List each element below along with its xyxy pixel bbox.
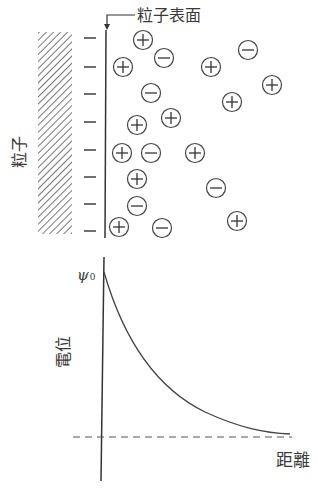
surface-charges bbox=[84, 38, 96, 231]
anion-icon bbox=[153, 219, 172, 238]
electric-double-layer-figure: 粒子 粒子表面 ψ0 電位 距離 bbox=[0, 0, 318, 494]
anion-icon bbox=[155, 49, 174, 68]
cation-icon bbox=[263, 76, 282, 95]
cation-icon bbox=[186, 144, 205, 163]
counter-ions bbox=[110, 31, 282, 238]
anion-icon bbox=[142, 144, 161, 163]
y-axis bbox=[101, 257, 104, 481]
cation-icon bbox=[128, 116, 147, 135]
surface-label-arrow bbox=[104, 15, 135, 30]
anion-icon bbox=[128, 197, 147, 216]
cation-icon bbox=[134, 31, 153, 50]
potential-chart: ψ0 電位 距離 bbox=[54, 257, 310, 481]
anion-icon bbox=[239, 41, 258, 60]
anion-icon bbox=[142, 84, 161, 103]
cation-icon bbox=[114, 58, 133, 77]
double-layer-diagram: 粒子 粒子表面 bbox=[10, 6, 282, 238]
surface-label: 粒子表面 bbox=[137, 6, 201, 25]
psi0-label: ψ0 bbox=[77, 266, 96, 284]
cation-icon bbox=[113, 144, 132, 163]
cation-icon bbox=[223, 93, 242, 112]
cation-icon bbox=[162, 109, 181, 128]
potential-axis-label: 電位 bbox=[54, 336, 73, 368]
distance-axis-label: 距離 bbox=[276, 450, 310, 470]
cation-icon bbox=[128, 170, 147, 189]
anion-icon bbox=[207, 179, 226, 198]
cation-icon bbox=[110, 218, 129, 237]
cation-icon bbox=[228, 212, 247, 231]
particle-surface-line bbox=[105, 30, 106, 238]
particle-hatched-block bbox=[38, 32, 72, 234]
potential-decay-curve bbox=[104, 272, 290, 434]
cation-icon bbox=[202, 58, 221, 77]
particle-label: 粒子 bbox=[10, 136, 29, 168]
